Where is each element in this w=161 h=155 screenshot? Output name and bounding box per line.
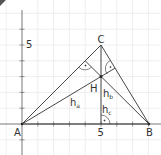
label-a: A (14, 127, 21, 138)
label-hb: hb (103, 88, 113, 100)
x-tick-label: 5 (98, 127, 104, 138)
corner-artifact (0, 0, 6, 6)
label-ha: ha (70, 97, 80, 109)
orthocenter-point (100, 75, 103, 78)
point-b (148, 123, 150, 125)
triangle-diagram: 5 5 A B C H ha hb hc (0, 0, 161, 155)
grid (0, 0, 161, 155)
axes (0, 10, 161, 155)
point-a (21, 123, 23, 125)
y-tick-label: 5 (26, 39, 32, 50)
label-hc: hc (102, 104, 112, 116)
label-b: B (146, 127, 153, 138)
label-c: C (98, 34, 105, 45)
label-h: H (90, 83, 98, 94)
right-angle-hc (101, 115, 110, 124)
